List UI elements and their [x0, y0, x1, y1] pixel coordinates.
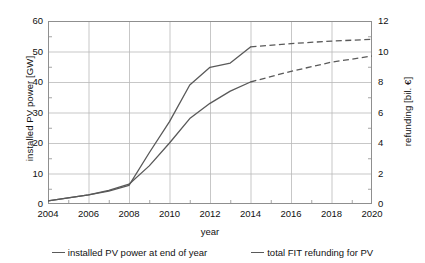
chart-figure: installed PV power [GW] refunding [bil. … — [0, 0, 425, 263]
series-line-forecast-0 — [251, 39, 373, 47]
x-tick-label: 2010 — [148, 208, 192, 219]
x-axis-title: year — [48, 226, 372, 237]
series-line-solid-1 — [48, 82, 251, 201]
x-tick-label: 2014 — [229, 208, 273, 219]
x-tick-label: 2004 — [26, 208, 70, 219]
legend-item-total-fit-refunding: total FIT refunding for PV — [251, 247, 373, 258]
y-tick-right-label: 8 — [378, 76, 418, 87]
y-tick-left-label: 30 — [3, 107, 43, 118]
plot-frame — [49, 22, 372, 204]
legend-label: total FIT refunding for PV — [267, 247, 373, 258]
legend-item-installed-pv-power: installed PV power at end of year — [52, 247, 207, 258]
y-tick-left-label: 10 — [3, 168, 43, 179]
legend-line-icon — [251, 252, 264, 253]
x-tick-label: 2016 — [269, 208, 313, 219]
y-tick-right-label: 12 — [378, 15, 418, 26]
y-tick-left-label: 50 — [3, 46, 43, 57]
x-tick-label: 2006 — [67, 208, 111, 219]
plot-area — [48, 21, 372, 204]
y-tick-right-label: 10 — [378, 46, 418, 57]
legend-line-icon — [52, 252, 65, 253]
y-tick-right-label: 6 — [378, 107, 418, 118]
y-tick-right-label: 4 — [378, 137, 418, 148]
legend-label: installed PV power at end of year — [68, 247, 207, 258]
x-tick-label: 2020 — [350, 208, 394, 219]
y-tick-left-label: 40 — [3, 76, 43, 87]
series-line-forecast-1 — [251, 56, 373, 82]
chart-legend: installed PV power at end of year total … — [0, 243, 425, 261]
plot-svg — [48, 21, 372, 204]
y-tick-left-label: 20 — [3, 137, 43, 148]
y-tick-right-label: 2 — [378, 168, 418, 179]
x-tick-label: 2018 — [310, 208, 354, 219]
series-line-solid-0 — [48, 47, 251, 201]
y-tick-left-label: 60 — [3, 15, 43, 26]
x-tick-label: 2012 — [188, 208, 232, 219]
x-tick-label: 2008 — [107, 208, 151, 219]
